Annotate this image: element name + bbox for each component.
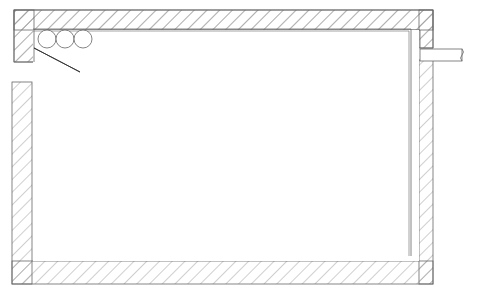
wall-right-upper <box>419 10 433 48</box>
wall-left-top <box>14 10 34 62</box>
sleeve-3 <box>74 30 92 48</box>
wall-bottom <box>12 261 433 284</box>
wall-right-lower <box>419 60 433 284</box>
sleeve-2 <box>56 30 74 48</box>
closet-conduit <box>420 49 462 61</box>
floor-plan-drawing <box>0 0 495 303</box>
sleeve-1 <box>38 30 56 48</box>
wall-left-bottom <box>12 82 32 284</box>
wall-top <box>14 10 433 30</box>
